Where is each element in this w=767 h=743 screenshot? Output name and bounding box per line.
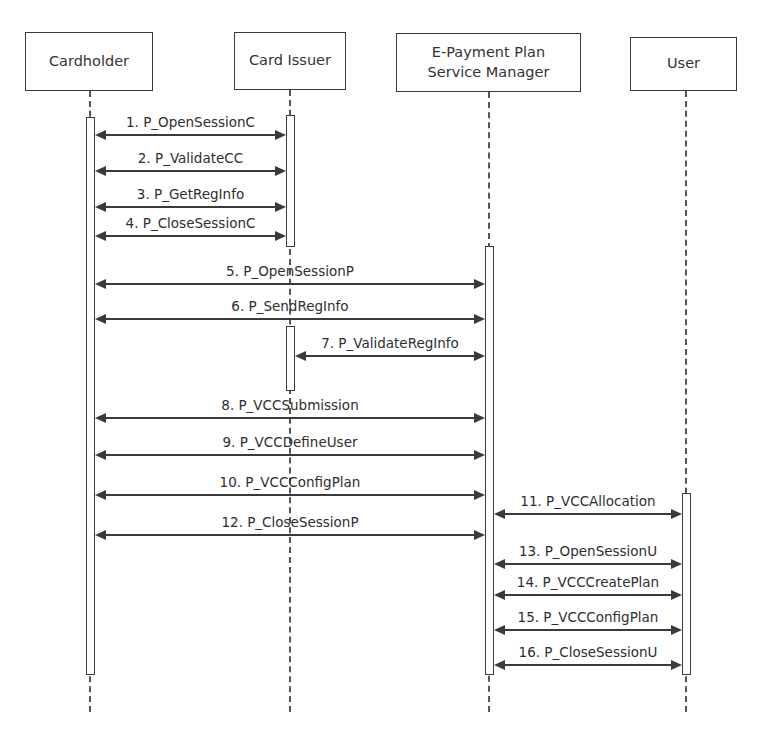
arrowhead-right-icon <box>474 279 485 289</box>
arrowhead-right-icon <box>275 231 286 241</box>
actor-label: E-Payment Plan Service Manager <box>428 43 550 82</box>
activation-bar-card_issuer <box>286 115 295 247</box>
arrowhead-right-icon <box>671 625 682 635</box>
message-label-1: 1. P_OpenSessionC <box>126 114 255 130</box>
arrowhead-left-icon <box>95 490 106 500</box>
activation-bar-user <box>682 493 691 675</box>
message-arrow-2 <box>95 166 286 176</box>
message-arrow-14 <box>494 590 682 600</box>
actor-epayment: E-Payment Plan Service Manager <box>396 33 581 92</box>
actor-label: Cardholder <box>49 52 129 72</box>
arrowhead-right-icon <box>474 450 485 460</box>
arrowhead-right-icon <box>671 559 682 569</box>
actor-label: User <box>667 54 700 74</box>
message-label-8: 8. P_VCCSubmission <box>221 397 358 413</box>
message-label-14: 14. P_VCCCreatePlan <box>517 574 659 590</box>
message-arrow-13 <box>494 559 682 569</box>
arrowhead-left-icon <box>95 450 106 460</box>
arrowhead-left-icon <box>494 625 505 635</box>
message-arrow-7 <box>295 351 485 361</box>
arrowhead-left-icon <box>95 231 106 241</box>
arrowhead-left-icon <box>295 351 306 361</box>
message-arrow-11 <box>494 509 682 519</box>
arrowhead-left-icon <box>95 530 106 540</box>
message-arrow-4 <box>95 231 286 241</box>
message-label-6: 6. P_SendRegInfo <box>231 298 348 314</box>
arrowhead-left-icon <box>95 130 106 140</box>
message-label-12: 12. P_CloseSessionP <box>221 514 358 530</box>
arrowhead-left-icon <box>95 314 106 324</box>
arrowhead-left-icon <box>95 166 106 176</box>
arrowhead-right-icon <box>671 590 682 600</box>
message-label-9: 9. P_VCCDefineUser <box>223 434 358 450</box>
activation-bar-card_issuer <box>286 326 295 391</box>
message-arrow-16 <box>494 660 682 670</box>
actor-label: Card Issuer <box>249 51 331 71</box>
arrowhead-left-icon <box>494 590 505 600</box>
arrowhead-right-icon <box>474 351 485 361</box>
message-arrow-3 <box>95 202 286 212</box>
message-label-7: 7. P_ValidateRegInfo <box>321 335 459 351</box>
arrowhead-right-icon <box>275 202 286 212</box>
activation-bar-epayment <box>485 246 494 675</box>
actor-cardholder: Cardholder <box>25 32 153 91</box>
arrowhead-right-icon <box>671 509 682 519</box>
message-arrows <box>0 0 767 743</box>
arrowhead-right-icon <box>671 660 682 670</box>
message-label-5: 5. P_OpenSessionP <box>226 263 354 279</box>
arrowhead-right-icon <box>275 166 286 176</box>
message-label-10: 10. P_VCCConfigPlan <box>220 474 361 490</box>
arrowhead-left-icon <box>494 660 505 670</box>
message-label-3: 3. P_GetRegInfo <box>137 186 244 202</box>
arrowhead-right-icon <box>275 130 286 140</box>
arrowhead-right-icon <box>474 530 485 540</box>
message-label-4: 4. P_CloseSessionC <box>126 215 256 231</box>
arrowhead-left-icon <box>494 559 505 569</box>
arrowhead-left-icon <box>95 279 106 289</box>
arrowhead-right-icon <box>474 314 485 324</box>
actor-card_issuer: Card Issuer <box>234 32 346 90</box>
message-label-2: 2. P_ValidateCC <box>138 150 243 166</box>
message-arrow-1 <box>95 130 286 140</box>
arrowhead-left-icon <box>95 413 106 423</box>
arrowhead-left-icon <box>494 509 505 519</box>
arrowhead-left-icon <box>95 202 106 212</box>
activation-bar-cardholder <box>86 117 95 675</box>
message-label-16: 16. P_CloseSessionU <box>519 644 658 660</box>
arrowhead-right-icon <box>474 413 485 423</box>
message-label-11: 11. P_VCCAllocation <box>520 493 655 509</box>
actor-user: User <box>630 37 737 91</box>
arrowhead-right-icon <box>474 490 485 500</box>
message-arrow-15 <box>494 625 682 635</box>
sequence-diagram: CardholderCard IssuerE-Payment Plan Serv… <box>0 0 767 743</box>
message-label-13: 13. P_OpenSessionU <box>519 543 657 559</box>
message-label-15: 15. P_VCCConfigPlan <box>518 609 659 625</box>
